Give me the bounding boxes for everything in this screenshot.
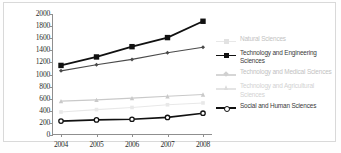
y-axis-tick-label: 1000 — [36, 71, 50, 79]
legend-item: Technology and Engineering Sciences — [216, 49, 338, 65]
series-technology-and-medical-sciences — [59, 45, 205, 73]
x-axis-tick-mark — [61, 134, 62, 137]
legend-item: Technology and Agricultural Sciences — [216, 82, 338, 98]
y-axis-tick-label: 800 — [39, 83, 50, 91]
y-axis-tick-label: 200 — [39, 119, 50, 127]
plot-inner — [53, 14, 212, 134]
legend-label-technology-medical: Technology and Medical Sciences — [240, 68, 332, 76]
legend-key-technology-agricultural — [216, 84, 236, 93]
legend-key-social-human — [216, 104, 236, 113]
series-canvas — [53, 14, 213, 135]
legend-key-technology-medical — [216, 70, 236, 79]
x-axis-tick-label: 2005 — [89, 140, 103, 149]
chart-legend: Natural Sciences Technology and Engineer… — [216, 35, 338, 116]
y-axis-tick-mark — [50, 50, 53, 51]
legend-key-technology-engineering — [216, 51, 236, 60]
y-axis-tick-label: 1200 — [36, 58, 50, 66]
x-axis-tick-label: 2006 — [125, 140, 139, 149]
y-axis-tick-mark — [50, 87, 53, 88]
x-axis-tick-mark — [97, 134, 98, 137]
y-axis-tick-mark — [50, 62, 53, 63]
series-technology-and-agricultural-sciences — [59, 92, 205, 103]
plot-area: 0200400600800100012001400160018002000 20… — [52, 14, 212, 135]
x-axis-tick-label: 2004 — [54, 140, 68, 149]
y-axis-tick-mark — [50, 111, 53, 112]
legend-key-natural-sciences — [216, 37, 236, 46]
y-axis-tick-mark — [50, 135, 53, 136]
y-axis-tick-mark — [50, 99, 53, 100]
y-axis-tick-label: 1800 — [36, 22, 50, 30]
series-natural-sciences — [59, 101, 205, 114]
legend-label-natural-sciences: Natural Sciences — [240, 35, 286, 43]
legend-item: Social and Human Sciences — [216, 102, 338, 113]
y-axis-tick-mark — [50, 123, 53, 124]
x-axis-tick-mark — [132, 134, 133, 137]
legend-item: Technology and Medical Sciences — [216, 68, 338, 79]
legend-label-technology-agricultural: Technology and Agricultural Sciences — [240, 82, 338, 98]
x-axis-tick-label: 2008 — [196, 140, 210, 149]
legend-label-technology-engineering: Technology and Engineering Sciences — [240, 49, 338, 65]
chart-screenshot: 0200400600800100012001400160018002000 20… — [0, 0, 341, 153]
x-axis-tick-mark — [168, 134, 169, 137]
chart-frame: 0200400600800100012001400160018002000 20… — [3, 2, 336, 142]
y-axis-tick-mark — [50, 26, 53, 27]
x-axis-tick-label: 2007 — [160, 140, 174, 149]
y-axis-tick-label: 1600 — [36, 34, 50, 42]
y-axis-tick-mark — [50, 14, 53, 15]
series-social-and-human-sciences — [59, 111, 205, 123]
x-axis-tick-mark — [203, 134, 204, 137]
y-axis-tick-mark — [50, 38, 53, 39]
y-axis-tick-label: 2000 — [36, 10, 50, 18]
y-axis-tick-label: 1400 — [36, 46, 50, 54]
y-axis-tick-mark — [50, 75, 53, 76]
y-axis-tick-label: 600 — [39, 95, 50, 103]
legend-item: Natural Sciences — [216, 35, 338, 46]
y-axis-tick-label: 400 — [39, 107, 50, 115]
legend-label-social-human: Social and Human Sciences — [240, 102, 316, 110]
